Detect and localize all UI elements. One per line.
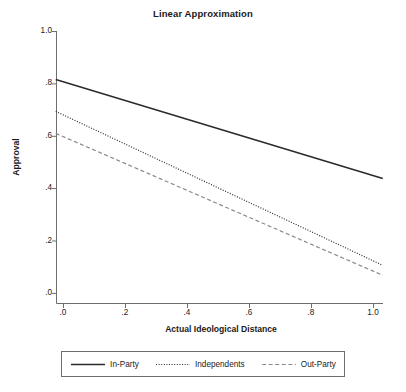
series-line-independents	[56, 111, 383, 265]
y-axis-ticks	[52, 32, 57, 294]
legend-line-solid-icon	[70, 360, 106, 368]
chart-legend: In-Party Independents Out-Party	[61, 351, 345, 377]
series-line-in-party	[56, 79, 383, 178]
legend-line-dotted-icon	[155, 360, 191, 368]
data-series-layer	[56, 79, 383, 275]
legend-label: Out-Party	[301, 360, 336, 369]
legend-line-dashed-icon	[261, 360, 297, 368]
chart-figure: Linear Approximation Approval Actual Ide…	[0, 0, 406, 392]
legend-item-out-party[interactable]: Out-Party	[261, 360, 336, 369]
legend-label: Independents	[195, 360, 245, 369]
series-line-out-party	[56, 133, 383, 275]
legend-item-independents[interactable]: Independents	[155, 360, 245, 369]
x-axis-ticks	[64, 304, 374, 309]
legend-label: In-Party	[110, 360, 139, 369]
legend-item-in-party[interactable]: In-Party	[70, 360, 139, 369]
plot-area	[0, 0, 406, 392]
